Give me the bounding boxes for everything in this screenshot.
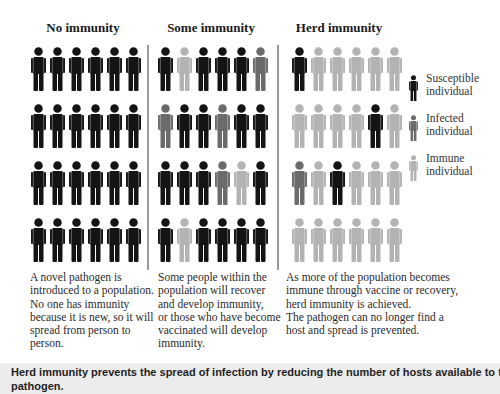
description-line: vaccinated will develop — [158, 324, 281, 337]
susceptible-person-icon — [29, 218, 48, 262]
legend-item-infected: Infected individual — [409, 112, 496, 152]
population-grid-no-immunity — [29, 47, 143, 275]
immune-person-icon — [328, 47, 347, 91]
susceptible-person-icon — [251, 161, 270, 205]
description-line: person. — [30, 337, 154, 350]
infected-person-icon — [156, 104, 175, 148]
immune-person-icon — [366, 161, 385, 205]
immune-person-icon — [309, 218, 328, 262]
description-line: or those who have become — [158, 311, 281, 324]
immune-person-icon — [232, 161, 251, 205]
population-row — [156, 104, 270, 161]
immune-person-icon — [175, 47, 194, 91]
immune-person-icon — [290, 104, 309, 148]
description-line: A novel pathogen is — [30, 271, 154, 284]
susceptible-person-icon — [290, 47, 309, 91]
susceptible-person-icon — [232, 47, 251, 91]
susceptible-person-icon — [29, 47, 48, 91]
figure-caption: Herd immunity prevents the spread of inf… — [0, 363, 500, 394]
immune-person-icon — [309, 104, 328, 148]
susceptible-person-icon — [251, 218, 270, 262]
legend-label-line2: individual — [426, 85, 496, 98]
immune-person-icon — [290, 218, 309, 262]
susceptible-person-icon — [156, 218, 175, 262]
population-row — [29, 104, 143, 161]
immune-person-icon — [328, 104, 347, 148]
susceptible-person-icon — [194, 47, 213, 91]
susceptible-person-icon — [366, 104, 385, 148]
susceptible-person-icon — [29, 161, 48, 205]
panel-divider — [147, 45, 149, 270]
susceptible-person-icon — [86, 161, 105, 205]
population-row — [156, 218, 270, 275]
susceptible-person-icon — [105, 218, 124, 262]
immune-person-icon — [385, 218, 404, 262]
susceptible-person-icon — [105, 47, 124, 91]
infected-person-icon — [251, 47, 270, 91]
description-no-immunity: A novel pathogen is introduced to a popu… — [30, 271, 154, 351]
immune-person-icon — [347, 161, 366, 205]
susceptible-person-icon — [124, 104, 143, 148]
description-line: herd immunity is achieved. — [286, 298, 458, 311]
description-line: host and spread is prevented. — [286, 324, 458, 337]
legend-label-line2: individual — [426, 125, 496, 138]
caption-line: Herd immunity prevents the spread of inf… — [11, 365, 500, 379]
susceptible-person-icon — [213, 47, 232, 91]
susceptible-person-icon — [86, 104, 105, 148]
infected-person-icon — [290, 161, 309, 205]
susceptible-person-icon — [67, 161, 86, 205]
description-line: introduced to a population. — [30, 284, 154, 297]
panel-title-some-immunity: Some immunity — [152, 20, 270, 36]
population-row — [156, 161, 270, 218]
population-row — [156, 47, 270, 104]
susceptible-person-icon — [194, 218, 213, 262]
infected-person-icon — [213, 161, 232, 205]
description-herd-immunity: As more of the population becomes immune… — [286, 271, 458, 337]
description-line: Some people within the — [158, 271, 281, 284]
description-line: and develop immunity, — [158, 298, 281, 311]
susceptible-person-icon — [194, 161, 213, 205]
susceptible-person-icon — [232, 104, 251, 148]
description-some-immunity: Some people within the population will r… — [158, 271, 281, 351]
susceptible-person-icon — [175, 161, 194, 205]
description-line: As more of the population becomes — [286, 271, 458, 284]
immune-person-icon — [385, 104, 404, 148]
susceptible-person-icon — [251, 104, 270, 148]
susceptible-person-icon — [105, 161, 124, 205]
susceptible-person-icon — [67, 218, 86, 262]
description-line: immunity. — [158, 337, 281, 350]
susceptible-person-icon — [29, 104, 48, 148]
population-row — [290, 218, 404, 275]
immune-person-icon — [347, 218, 366, 262]
legend: Susceptible individual Infected individu… — [409, 72, 496, 192]
description-line: The pathogen can no longer find a — [286, 311, 458, 324]
description-line: immune through vaccine or recovery, — [286, 284, 458, 297]
legend-label-line1: Susceptible — [426, 72, 496, 85]
immune-person-icon — [328, 218, 347, 262]
population-row — [29, 218, 143, 275]
immune-person-icon — [385, 47, 404, 91]
immune-person-icon — [366, 47, 385, 91]
susceptible-person-icon — [328, 161, 347, 205]
population-row — [290, 47, 404, 104]
susceptible-person-icon — [213, 218, 232, 262]
panel-title-herd-immunity: Herd immunity — [280, 20, 398, 36]
legend-label-line1: Immune — [426, 152, 496, 165]
susceptible-person-icon — [232, 218, 251, 262]
immune-person-icon — [347, 47, 366, 91]
susceptible-person-icon — [105, 104, 124, 148]
population-grid-herd-immunity — [290, 47, 404, 275]
susceptible-person-icon — [124, 218, 143, 262]
immune-person-icon — [366, 218, 385, 262]
susceptible-person-icon — [156, 47, 175, 91]
susceptible-person-icon — [86, 218, 105, 262]
caption-line: pathogen. — [11, 379, 500, 393]
description-line: No one has immunity — [30, 298, 154, 311]
immune-person-icon — [309, 47, 328, 91]
population-row — [29, 161, 143, 218]
immune-person-icon — [409, 153, 422, 185]
legend-item-immune: Immune individual — [409, 152, 496, 192]
susceptible-person-icon — [48, 218, 67, 262]
description-line: population will recover — [158, 284, 281, 297]
population-row — [29, 47, 143, 104]
